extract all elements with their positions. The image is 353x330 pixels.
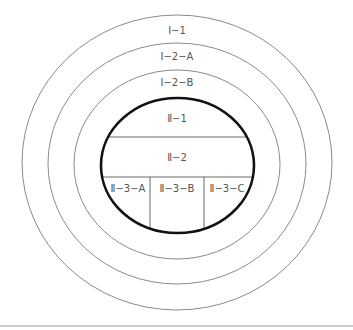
label-core-middle: Ⅱ−2 <box>167 152 187 163</box>
label-core-bottom-b: Ⅱ−3−B <box>160 183 195 194</box>
label-ring-2b: Ⅰ−2−B <box>161 77 194 88</box>
nested-circle-diagram: Ⅰ−1 Ⅰ−2−A Ⅰ−2−B Ⅱ−1 Ⅱ−2 Ⅱ−3−A Ⅱ−3−B Ⅱ−3−… <box>0 0 353 330</box>
label-ring-2a: Ⅰ−2−A <box>161 51 194 62</box>
label-core-bottom-c: Ⅱ−3−C <box>209 183 244 194</box>
label-core-bottom-a: Ⅱ−3−A <box>111 183 146 194</box>
label-ring-1: Ⅰ−1 <box>168 25 186 36</box>
label-core-top: Ⅱ−1 <box>167 113 187 124</box>
